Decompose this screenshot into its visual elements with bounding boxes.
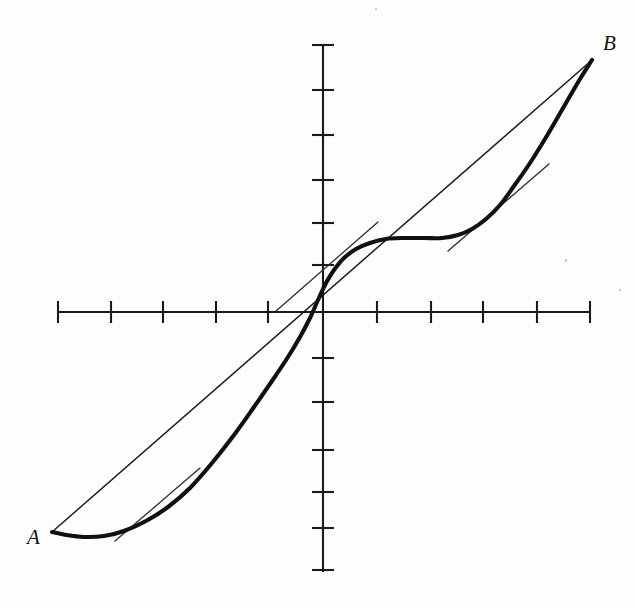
point-label-b: B bbox=[603, 33, 616, 54]
figure-canvas: A B bbox=[0, 0, 637, 608]
paper-speck-1 bbox=[565, 259, 567, 262]
point-label-a: A bbox=[27, 527, 40, 548]
paper-speck-2 bbox=[619, 289, 621, 291]
plot-svg bbox=[0, 0, 637, 608]
tangent-middle-segment bbox=[276, 222, 378, 311]
paper-speck-3 bbox=[375, 8, 377, 10]
